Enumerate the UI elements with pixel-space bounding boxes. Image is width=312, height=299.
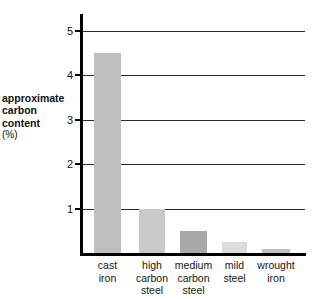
x-axis-label-line: steel — [166, 284, 222, 297]
x-axis-line — [80, 253, 306, 256]
y-axis-line — [80, 14, 83, 256]
y-tick-label: 1 — [67, 203, 73, 214]
y-tick-mark — [75, 119, 83, 121]
x-axis-label-line: iron — [248, 272, 304, 285]
y-tick-mark — [75, 163, 83, 165]
bar-high-carbon-steel — [139, 209, 165, 254]
y-tick-mark — [75, 74, 83, 76]
bar-mild-steel — [222, 242, 247, 253]
bar-medium-carbon-steel — [180, 231, 207, 253]
gridline — [83, 31, 305, 32]
y-tick-label: 5 — [67, 25, 73, 36]
y-tick-label: 2 — [67, 159, 73, 170]
y-tick-label: 3 — [67, 114, 73, 125]
bar-cast-iron — [94, 53, 121, 253]
bar-wrought-iron — [262, 249, 290, 253]
y-tick-mark — [75, 30, 83, 32]
y-axis-unit-label: (%) — [2, 129, 72, 141]
plot-area: 12345 — [80, 14, 306, 256]
y-axis-label-line-2: carbon — [2, 104, 72, 116]
y-tick-mark — [75, 208, 83, 210]
y-axis-label: approximate carbon content (%) — [2, 92, 72, 142]
x-axis-label-wrought-iron: wroughtiron — [248, 259, 304, 284]
y-axis-label-line-1: approximate — [2, 92, 72, 104]
x-axis-label-line: wrought — [248, 259, 304, 272]
y-tick-label: 4 — [67, 70, 73, 81]
bar-chart: approximate carbon content (%) 12345 cas… — [0, 0, 312, 299]
y-axis-label-line-3: content — [2, 117, 72, 129]
